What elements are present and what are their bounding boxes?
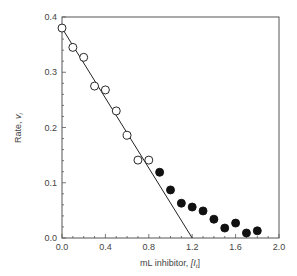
open-circle-point [69, 43, 77, 51]
chart: 0.00.40.81.21.62.0 0.00.10.20.30.4 mL in… [0, 0, 297, 276]
x-axis-label: mL inhibitor, [It] [140, 258, 200, 269]
y-tick-label: 0.0 [44, 233, 57, 243]
x-tick-label: 0.8 [143, 242, 156, 252]
y-tick-label: 0.4 [44, 12, 57, 22]
plot-border [62, 17, 279, 238]
open-circle-point [112, 107, 120, 115]
y-tick-label: 0.3 [44, 67, 57, 77]
plot-frame [62, 17, 279, 238]
open-circle-point [91, 82, 99, 90]
axis-ticks [62, 17, 279, 238]
filled-circle-point [167, 186, 175, 194]
filled-circle-point [242, 229, 250, 237]
filled-circle-point [199, 207, 207, 215]
filled-circle-point [210, 215, 218, 223]
open-circle-point [101, 86, 109, 94]
x-tick-label: 1.2 [186, 242, 199, 252]
filled-circle-point [177, 199, 185, 207]
filled-circle-point [188, 203, 196, 211]
x-tick-label: 0.4 [99, 242, 112, 252]
data-points [58, 24, 261, 237]
open-circle-point [58, 24, 66, 32]
x-tick-labels: 0.00.40.81.21.62.0 [56, 242, 286, 252]
open-circle-point [123, 131, 131, 139]
filled-circle-point [232, 219, 240, 227]
y-tick-labels: 0.00.10.20.30.4 [44, 12, 57, 243]
x-tick-label: 0.0 [56, 242, 69, 252]
filled-circle-point [156, 168, 164, 176]
filled-circle-point [253, 227, 261, 235]
open-circle-point [134, 156, 142, 164]
y-tick-label: 0.1 [44, 178, 57, 188]
filled-circle-point [221, 224, 229, 232]
x-tick-label: 2.0 [273, 242, 286, 252]
y-tick-label: 0.2 [44, 123, 57, 133]
open-circle-point [80, 53, 88, 61]
x-tick-label: 1.6 [229, 242, 242, 252]
open-circle-point [145, 156, 153, 164]
y-axis-label: Rate, vi [13, 112, 24, 143]
